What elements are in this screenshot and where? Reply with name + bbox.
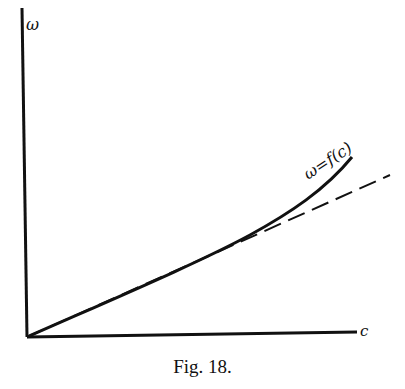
- figure-diagram: ω c ω=f(c): [0, 0, 405, 389]
- figure-caption: Fig. 18.: [0, 356, 405, 378]
- curve-omega-f-c: [27, 157, 352, 337]
- y-axis: [22, 8, 27, 337]
- x-axis: [27, 332, 357, 337]
- y-axis-label: ω: [26, 15, 39, 34]
- x-axis-label: c: [360, 322, 369, 340]
